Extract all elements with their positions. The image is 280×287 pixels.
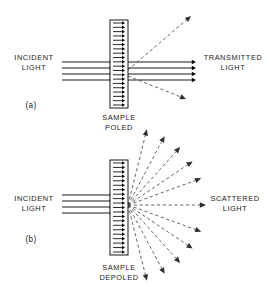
panel-a-caption-line2: POLED <box>105 123 133 132</box>
figure-root: (a) INCIDENT LIGHT TRANSMITTED LIGHT SAM… <box>0 0 280 287</box>
panel-b-caption-line2: DEPOLED <box>99 273 138 282</box>
panel-b-incident-rays <box>62 193 114 216</box>
panel-a-transmitted-label-line1: TRANSMITTED <box>204 53 263 62</box>
panel-a-scattered-rays <box>128 16 191 99</box>
panel-b-incident-label-line2: LIGHT <box>22 204 47 213</box>
scattered-ray-arrowhead <box>195 227 202 232</box>
transmitted-ray-arrowhead <box>192 78 196 83</box>
panel-b-incident-label-line1: INCIDENT <box>14 194 53 203</box>
scattered-ray <box>128 205 176 259</box>
panel-a-sample-box <box>110 20 128 108</box>
scattered-ray-arrowhead <box>143 274 148 281</box>
panel-a-caption-line1: SAMPLE <box>102 113 135 122</box>
panel-b-scattered-label-line2: LIGHT <box>223 204 248 213</box>
panel-a-incident-label-line1: INCIDENT <box>14 53 53 62</box>
transmitted-ray-arrowhead <box>192 72 196 77</box>
panel-a-transmitted-rays <box>128 60 196 83</box>
scattered-ray-arrowhead <box>179 94 186 99</box>
panel-a-incident-label-line2: LIGHT <box>22 63 47 72</box>
panel-a-tag: (a) <box>26 101 37 110</box>
panel-b-tag: (b) <box>26 235 37 244</box>
figure-diagram: (a) INCIDENT LIGHT TRANSMITTED LIGHT SAM… <box>0 0 280 287</box>
panel-b-scatter-fan <box>128 129 206 280</box>
sample-rectangle <box>110 20 128 108</box>
panel-b-scattered-label-line1: SCATTERED <box>210 194 259 203</box>
scattered-ray-arrowhead <box>186 161 193 167</box>
panel-b: (b) INCIDENT LIGHT SCATTERED LIGHT SAMPL… <box>14 129 259 282</box>
scattered-ray-arrowhead <box>186 243 193 249</box>
panel-a-incident-rays <box>62 60 114 83</box>
scattered-ray-arrowhead <box>143 129 148 136</box>
panel-b-caption-line1: SAMPLE <box>102 263 135 272</box>
panel-a: (a) INCIDENT LIGHT TRANSMITTED LIGHT SAM… <box>14 16 262 132</box>
panel-b-sample-box <box>110 160 128 255</box>
panel-a-transmitted-label-line2: LIGHT <box>221 63 246 72</box>
scattered-ray-arrowhead <box>195 178 202 183</box>
scattered-ray <box>128 76 181 97</box>
scattered-ray <box>128 205 196 230</box>
transmitted-ray-arrowhead <box>192 66 196 71</box>
scattered-ray-arrowhead <box>200 202 206 207</box>
transmitted-ray-arrowhead <box>192 60 196 65</box>
scattered-ray <box>128 180 196 205</box>
scattered-ray <box>128 151 176 205</box>
